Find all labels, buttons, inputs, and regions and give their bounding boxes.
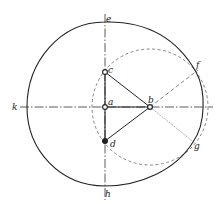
label-g: g xyxy=(194,141,200,151)
label-e: e xyxy=(106,14,111,24)
point-b-marker xyxy=(148,105,153,110)
point-a-marker xyxy=(103,105,108,110)
point-d-marker xyxy=(102,138,107,143)
outer-egg-curve xyxy=(27,22,203,186)
ray-b-g xyxy=(150,107,195,143)
ray-b-f xyxy=(150,70,198,107)
label-c: c xyxy=(108,65,113,75)
segment-d-b xyxy=(105,107,150,141)
point-c-marker xyxy=(103,70,108,75)
label-k: k xyxy=(12,102,17,112)
label-f: f xyxy=(195,60,201,70)
label-b: b xyxy=(148,95,154,105)
oval-construction-diagram: e c f k a b d g h xyxy=(0,0,216,205)
label-a: a xyxy=(108,97,113,107)
label-h: h xyxy=(105,189,111,199)
label-d: d xyxy=(110,139,116,149)
